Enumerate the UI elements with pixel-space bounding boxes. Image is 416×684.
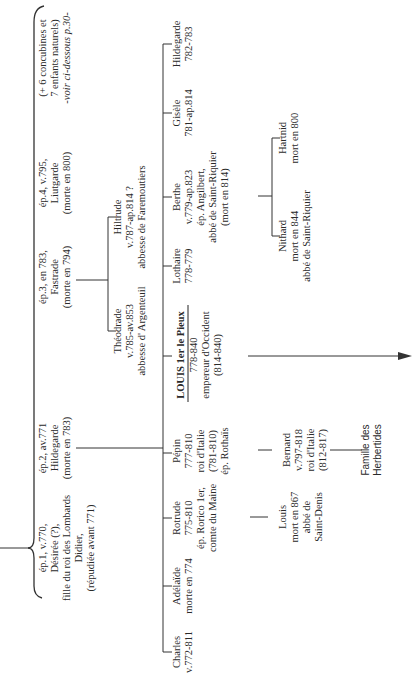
berthe-line: abbé de Saint-Riquier bbox=[207, 151, 218, 243]
louis-saint-denis-line: abbé de bbox=[301, 500, 312, 533]
spouse-ep3-line: (morte en 794) bbox=[61, 245, 73, 308]
child-hiltrude: Hiltrude v.787-ap.814 ? abbesse de Farem… bbox=[112, 165, 147, 268]
spouse-ep3-line: Fastrade bbox=[49, 259, 60, 295]
grandchild-nithard: Nithard mort en 844 abbé de Saint-Riquie… bbox=[277, 190, 312, 282]
berthe-line: ép. Angilbert, bbox=[195, 168, 206, 225]
theodrade-line: v.785-av.853 bbox=[124, 304, 135, 358]
louis-line: empereur d'Occident bbox=[200, 311, 211, 398]
spouse-ep1: ép.1, v.770, Désirée (?), fille du roi d… bbox=[37, 495, 97, 601]
theodrade-line: abbesse d' Argenteuil bbox=[136, 286, 147, 375]
grandchild-hartnid: Hartnid mort en 800 bbox=[277, 113, 300, 164]
arrow-head-icon bbox=[398, 352, 412, 360]
louis-line: 778-840 bbox=[188, 338, 199, 373]
spouse-ep4-line: Liutgarde bbox=[49, 162, 60, 203]
rotrude-line: Rotrude bbox=[171, 501, 182, 535]
hartnid-line: mort en 800 bbox=[289, 113, 300, 164]
spouse-ep4-line: ép.4, v.795, bbox=[37, 159, 48, 208]
spouse-ep2-line: Hildegarde bbox=[49, 424, 60, 471]
rotrude-line: comte du Maine bbox=[207, 484, 218, 553]
concubines-reference: -voir ci-dessous p.30- bbox=[61, 12, 72, 104]
rotrude-line: ép. Rorico 1er, bbox=[195, 487, 206, 549]
grandchild-bernard: Bernard v.797-818 roi d'Italie (812-817) bbox=[281, 428, 329, 471]
bernard-line: Bernard bbox=[281, 432, 292, 467]
bernard-line: roi d'Italie bbox=[305, 428, 316, 471]
hildegarde-child-line: 782-783 bbox=[183, 27, 194, 62]
berthe-line: v.779-ap.823 bbox=[183, 170, 194, 225]
nithard-line: mort en 844 bbox=[289, 210, 300, 261]
pepin-line: ép. Rothaïs bbox=[219, 427, 230, 474]
rotrude-line: 775-810 bbox=[183, 501, 194, 536]
child-adelaide: Adélaïde morte en 774 bbox=[171, 558, 194, 614]
concubines-line: 7 enfants naturels) bbox=[49, 19, 61, 97]
lothaire-line: 778-779 bbox=[183, 249, 194, 284]
louis-saint-denis-line: mort en 867 bbox=[289, 492, 300, 543]
herbertides-line: Herbertides bbox=[372, 424, 383, 476]
child-rotrude: Rotrude 775-810 ép. Rorico 1er, comte du… bbox=[171, 484, 218, 553]
louis-saint-denis-line: Saint-Denis bbox=[313, 492, 324, 542]
louis-line: (814-840) bbox=[212, 334, 224, 376]
spouse-ep1-line: fille du roi des Lombards bbox=[61, 495, 72, 601]
child-hildegarde: Hildegarde 782-783 bbox=[171, 20, 194, 67]
spouse-ep1-line: Didier, bbox=[73, 533, 84, 562]
berthe-line: Berthe bbox=[171, 183, 182, 211]
charles-line: Charles bbox=[171, 636, 182, 668]
theodrade-line: Théodrade bbox=[112, 308, 123, 353]
bernard-line: (812-817) bbox=[317, 429, 329, 471]
concubines-note: (+ 6 concubines et 7 enfants naturels) -… bbox=[37, 12, 72, 104]
child-charles: Charles v.772-811 bbox=[171, 631, 194, 673]
spouse-ep1-line: (répudiée avant 771) bbox=[85, 504, 97, 591]
herbertides-line: Famille des bbox=[360, 424, 371, 475]
spouse-ep2-line: (morte en 783) bbox=[61, 416, 73, 479]
nithard-line: Nithard bbox=[277, 219, 288, 252]
lothaire-line: Lothaire bbox=[171, 248, 182, 284]
gisele-line: Gisèle bbox=[171, 99, 182, 126]
spouse-ep1-line: Désirée (?), bbox=[49, 524, 61, 573]
hiltrude-line: Hiltrude bbox=[112, 199, 123, 234]
spouse-ep2: ép.2, av.771 Hildegarde (morte en 783) bbox=[37, 416, 73, 479]
herbertides-family: Famille des Herbertides bbox=[360, 424, 383, 476]
genealogy-diagram: ép.1, v.770, Désirée (?), fille du roi d… bbox=[0, 0, 416, 684]
louis-saint-denis-line: Louis bbox=[277, 505, 288, 529]
pepin-line: (781-810) bbox=[207, 430, 219, 472]
spouse-ep1-line: ép.1, v.770, bbox=[37, 524, 48, 573]
spouse-ep2-line: ép.2, av.771 bbox=[37, 423, 48, 474]
charles-line: v.772-811 bbox=[183, 631, 194, 673]
spouse-ep3: ép.3, en 783, Fastrade (morte en 794) bbox=[37, 245, 73, 308]
louis-name: LOUIS 1er le Pieux bbox=[175, 310, 186, 398]
spouse-ep4-line: (morte en 800) bbox=[61, 151, 73, 214]
child-theodrade: Théodrade v.785-av.853 abbesse d' Argent… bbox=[112, 286, 147, 375]
child-lothaire: Lothaire 778-779 bbox=[171, 248, 194, 284]
child-gisele: Gisèle 781-ap.814 bbox=[171, 88, 194, 136]
bernard-line: v.797-818 bbox=[293, 429, 304, 471]
pepin-line: roi d'Italie bbox=[195, 429, 206, 472]
nithard-line: abbé de Saint-Riquier bbox=[301, 190, 312, 282]
berthe-line: (mort en 814) bbox=[219, 168, 231, 226]
grandchild-louis-saint-denis: Louis mort en 867 abbé de Saint-Denis bbox=[277, 492, 324, 543]
child-pepin: Pépin 777-810 roi d'Italie (781-810) ép.… bbox=[171, 427, 230, 474]
pepin-line: Pépin bbox=[171, 438, 182, 463]
child-berthe: Berthe v.779-ap.823 ép. Angilbert, abbé … bbox=[171, 151, 231, 243]
hildegarde-child-line: Hildegarde bbox=[171, 20, 182, 67]
spouse-ep3-line: ép.3, en 783, bbox=[37, 250, 48, 304]
hiltrude-line: v.787-ap.814 ? bbox=[124, 186, 135, 248]
hiltrude-line: abbesse de Faremoutiers bbox=[136, 165, 147, 268]
adelaide-line: Adélaïde bbox=[171, 567, 182, 605]
child-louis: LOUIS 1er le Pieux 778-840 empereur d'Oc… bbox=[175, 310, 224, 398]
adelaide-line: morte en 774 bbox=[183, 558, 194, 614]
pepin-line: 777-810 bbox=[183, 434, 194, 469]
spouse-ep4: ép.4, v.795, Liutgarde (morte en 800) bbox=[37, 151, 73, 214]
hartnid-line: Hartnid bbox=[277, 121, 288, 154]
concubines-line: (+ 6 concubines et bbox=[37, 19, 49, 96]
gisele-line: 781-ap.814 bbox=[183, 88, 194, 136]
